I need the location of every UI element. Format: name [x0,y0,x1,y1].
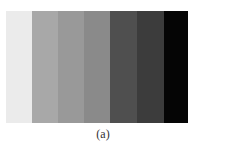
gray-bar-1 [6,11,32,123]
gray-bar-7 [164,11,188,123]
figure-caption: (a) [0,127,206,142]
gray-bar-6 [137,11,164,123]
gray-bar-4 [84,11,110,123]
gray-bar-3 [58,11,84,123]
gray-bar-5 [110,11,137,123]
gray-bar-2 [32,11,58,123]
grayscale-step-wedge [6,11,188,123]
